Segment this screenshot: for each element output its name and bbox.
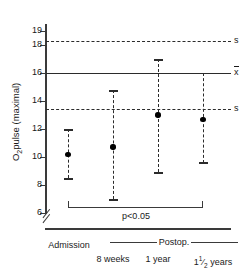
error-cap-upper-admission	[64, 129, 73, 131]
reference-label-mean: x	[234, 68, 239, 77]
y-axis-title-lead: O	[10, 154, 21, 161]
chart-figure: O2pulse (maximal) 19 18 16 14 12 10 8 6 …	[0, 0, 249, 272]
data-point-8-weeks	[110, 144, 115, 149]
y-axis-title-subscript: 2	[16, 150, 23, 154]
x-label-1-half-years: 11⁄2 years	[181, 254, 245, 271]
x-axis-line	[45, 228, 231, 230]
reference-label-lower-s: s	[234, 104, 239, 113]
error-cap-upper-1-year	[154, 59, 163, 61]
postop-rule-left	[110, 242, 157, 243]
data-point-admission	[65, 152, 70, 157]
x-label-1-year: 1 year	[133, 254, 183, 264]
y-tick-label-10: 10	[32, 152, 42, 161]
postop-rule-right	[191, 242, 238, 243]
x-label-postop: Postop.	[159, 238, 190, 247]
fraction-unit: years	[210, 257, 232, 267]
y-tick-label-6: 6	[37, 208, 42, 217]
data-point-1-half-years	[200, 117, 205, 122]
reference-line-upper-s	[46, 41, 231, 42]
y-tick-label-14: 14	[32, 96, 42, 105]
y-tick-label-16: 16	[32, 68, 42, 77]
data-point-1-year	[155, 112, 160, 117]
reference-label-upper-s: s	[234, 36, 239, 45]
error-cap-lower-1-year	[154, 172, 163, 174]
fraction-one-half: 11⁄2	[194, 254, 208, 271]
p-value-label: p<0.05	[101, 212, 171, 221]
fraction-denominator: 2	[204, 262, 208, 269]
error-cap-lower-admission	[64, 178, 73, 180]
error-cap-lower-1-half-years	[199, 162, 208, 164]
postop-group: Postop.	[110, 238, 238, 247]
significance-bracket	[68, 200, 203, 208]
y-axis-title-main: pulse (maximal)	[10, 83, 21, 150]
error-cap-upper-8-weeks	[109, 90, 118, 92]
x-label-admission: Admission	[33, 240, 105, 250]
y-tick-label-8: 8	[37, 180, 42, 189]
mean-symbol: x	[234, 68, 239, 77]
y-axis-line	[45, 24, 47, 214]
y-axis-title: O2pulse (maximal)	[11, 52, 25, 192]
y-tick-label-18: 18	[32, 40, 42, 49]
y-tick-label-12: 12	[32, 124, 42, 133]
y-tick-label-19: 19	[32, 26, 42, 35]
